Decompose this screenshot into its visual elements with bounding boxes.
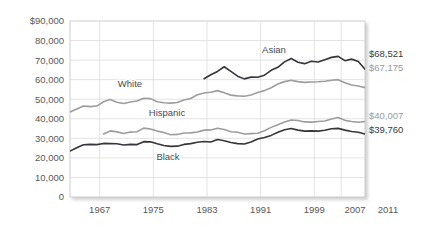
end-value-labels: $68,521 $67,175 $40,007 $39,760 [369,48,403,135]
y-tick-50000: 50,000 [35,94,64,105]
end-label-white: $67,175 [369,62,403,73]
chart-canvas: $90,000 80,000 70,000 60,000 50,000 40,0… [0,0,427,233]
end-label-black: $39,760 [369,124,403,135]
x-tick-1975: 1975 [143,204,164,215]
series-label-black: Black [156,151,179,162]
x-axis-tick-labels: 1967 1975 1983 1991 1999 2007 2011 [89,204,398,215]
end-label-asian: $68,521 [369,48,403,59]
plot-area-frame [70,21,365,197]
y-tick-80000: 80,000 [35,35,64,46]
y-tick-30000: 30,000 [35,133,64,144]
x-tick-1991: 1991 [250,204,271,215]
y-tick-40000: 40,000 [35,113,64,124]
end-label-hispanic: $40,007 [369,110,403,121]
x-tick-2011: 2011 [378,204,398,215]
y-tick-70000: 70,000 [35,55,64,66]
y-tick-0: 0 [59,191,64,202]
y-tick-10000: 10,000 [35,172,64,183]
x-tick-1983: 1983 [196,204,217,215]
x-tick-1967: 1967 [89,204,110,215]
y-tick-60000: 60,000 [35,74,64,85]
income-by-race-line-chart: $90,000 80,000 70,000 60,000 50,000 40,0… [0,0,427,233]
x-tick-2007: 2007 [344,204,365,215]
series-label-hispanic: Hispanic [149,107,186,118]
y-tick-90000: $90,000 [30,15,64,26]
x-tick-1999: 1999 [304,204,325,215]
series-label-asian: Asian [262,44,286,55]
series-label-white: White [118,78,142,89]
y-tick-20000: 20,000 [35,152,64,163]
y-axis-tick-labels: $90,000 80,000 70,000 60,000 50,000 40,0… [30,15,64,202]
